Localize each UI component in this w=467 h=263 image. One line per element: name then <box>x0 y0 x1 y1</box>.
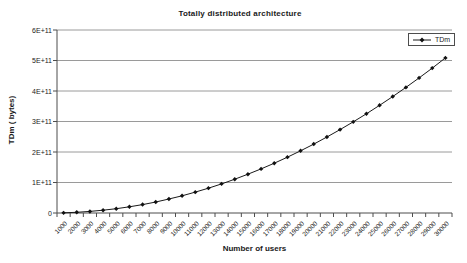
y-tick-label: 4E+11 <box>32 88 52 95</box>
chart-figure: 01E+112E+113E+114E+115E+116E+11100020003… <box>0 0 467 263</box>
legend-series-label: TDm <box>435 36 450 43</box>
data-point-marker <box>325 135 329 139</box>
x-tick-label: 3000 <box>79 219 94 234</box>
data-point-marker <box>127 205 131 209</box>
x-tick-label: 8000 <box>145 219 160 234</box>
legend-series-marker-icon <box>412 36 432 44</box>
data-point-marker <box>140 202 144 206</box>
x-tick-label: 5000 <box>106 219 121 234</box>
chart-title: Totally distributed architecture <box>30 9 450 18</box>
data-point-marker <box>101 208 105 212</box>
x-tick-label: 2000 <box>66 219 81 234</box>
data-point-marker <box>233 177 237 181</box>
data-point-marker <box>338 127 342 131</box>
data-point-marker <box>285 155 289 159</box>
data-point-marker <box>154 200 158 204</box>
chart-canvas: 01E+112E+113E+114E+115E+116E+11100020003… <box>0 0 467 263</box>
legend-box: TDm <box>408 33 455 46</box>
y-axis-title: TDm ( bytes) <box>7 96 16 144</box>
data-point-marker <box>114 206 118 210</box>
series-line-tdm <box>64 58 446 213</box>
y-tick-label: 6E+11 <box>32 27 52 34</box>
data-point-marker <box>61 211 65 215</box>
x-tick-label: 30000 <box>432 219 450 237</box>
data-point-marker <box>167 197 171 201</box>
x-tick-label: 1000 <box>53 219 68 234</box>
data-point-marker <box>193 190 197 194</box>
x-axis-title: Number of users <box>57 244 452 253</box>
y-tick-label: 0 <box>48 210 52 217</box>
data-point-marker <box>206 186 210 190</box>
x-tick-label: 7000 <box>132 219 147 234</box>
data-point-marker <box>312 142 316 146</box>
y-tick-label: 2E+11 <box>32 149 52 156</box>
data-point-marker <box>259 167 263 171</box>
data-point-marker <box>351 120 355 124</box>
y-tick-label: 1E+11 <box>32 179 52 186</box>
x-tick-label: 6000 <box>119 219 134 234</box>
data-point-marker <box>246 172 250 176</box>
data-point-marker <box>272 161 276 165</box>
data-point-marker <box>180 194 184 198</box>
y-tick-label: 3E+11 <box>32 118 52 125</box>
data-point-marker <box>75 210 79 214</box>
y-tick-label: 5E+11 <box>32 57 52 64</box>
x-tick-label: 4000 <box>93 219 108 234</box>
